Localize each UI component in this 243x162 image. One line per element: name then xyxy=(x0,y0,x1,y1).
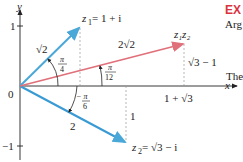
svg-text:6: 6 xyxy=(83,102,87,111)
svg-text:z: z xyxy=(131,141,137,153)
z2-modulus: 2 xyxy=(70,120,76,132)
svg-text:π: π xyxy=(108,63,113,72)
origin-label: 0 xyxy=(8,88,14,100)
axes xyxy=(17,10,237,160)
y-tick-neg-1: −1 xyxy=(2,140,14,152)
z2-angle-label: − π 6 xyxy=(76,92,90,111)
svg-text:− π: − π xyxy=(76,92,88,101)
angle-arc-pi-4 xyxy=(48,59,58,86)
angle-arc-pi-12 xyxy=(100,66,102,86)
z1-angle-label: π 4 xyxy=(58,55,67,74)
product-x-coord: 1 + √3 xyxy=(164,92,193,104)
z2-label: z 2 = √3 − i xyxy=(131,141,177,156)
svg-text:= √3 − i: = √3 − i xyxy=(142,141,177,153)
complex-plane-diagram: y x 0 1 −1 z 1 = 1 + i √2 π 4 z₁z₂ 2√2 π… xyxy=(0,0,243,162)
z2-vector xyxy=(20,86,125,142)
example-heading: EX xyxy=(225,3,241,17)
y-tick-1: 1 xyxy=(10,20,16,32)
svg-text:z: z xyxy=(81,12,87,24)
svg-text:12: 12 xyxy=(105,73,113,82)
product-label: z₁z₂ xyxy=(173,28,190,40)
side-text-the: The xyxy=(226,70,243,82)
z1-modulus: √2 xyxy=(36,43,48,55)
z1-vector xyxy=(20,28,79,86)
y-axis-label: y xyxy=(16,0,22,12)
product-angle-label: π 12 xyxy=(105,63,116,82)
product-y-coord: √3 − 1 xyxy=(188,56,217,68)
svg-text:π: π xyxy=(60,55,65,64)
side-text-arg: Arg xyxy=(225,18,242,30)
z2-vertical-length: 1 xyxy=(130,110,136,122)
svg-text:= 1 + i: = 1 + i xyxy=(92,12,121,24)
product-modulus: 2√2 xyxy=(118,38,135,50)
z1-label: z 1 = 1 + i xyxy=(81,12,121,27)
svg-text:4: 4 xyxy=(60,65,64,74)
